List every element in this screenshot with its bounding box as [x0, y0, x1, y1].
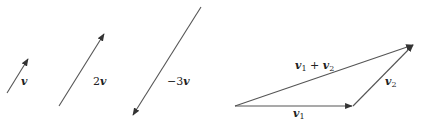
- label-neg3v: −3v: [167, 75, 190, 88]
- label-sum-sub2: 2: [329, 64, 334, 73]
- label-2v-sym: v: [100, 75, 107, 88]
- label-v2-sub: 2: [391, 80, 396, 89]
- label-v1: v1: [293, 107, 305, 121]
- arrow-2v: [59, 34, 104, 106]
- label-sum: v1 + v2: [295, 59, 334, 73]
- label-v2: v2: [385, 75, 397, 89]
- label-2v-coef: 2: [93, 75, 100, 88]
- label-neg3v-sym: v: [183, 75, 190, 88]
- arrow-v2: [353, 45, 413, 106]
- addition-group: v1 + v2 v2 v1: [235, 45, 413, 121]
- arrow-neg3v: [133, 7, 201, 115]
- scaling-group: v 2v −3v: [7, 7, 201, 115]
- vector-diagram: v 2v −3v v1 + v2 v2 v1: [0, 0, 421, 127]
- label-sum-op: +: [307, 59, 323, 72]
- label-v1-sub: 1: [299, 112, 304, 121]
- label-neg3v-coef: −3: [167, 75, 183, 88]
- label-v: v: [21, 75, 28, 88]
- label-2v: 2v: [93, 75, 107, 88]
